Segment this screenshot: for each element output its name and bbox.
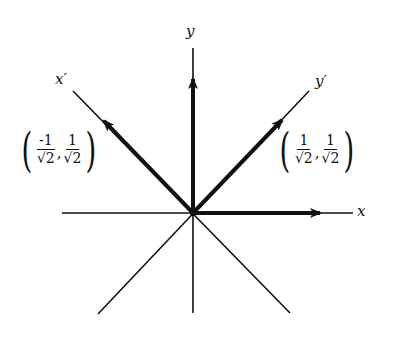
separator: ,: [57, 144, 62, 162]
y-component-fraction: 1 √2: [64, 133, 82, 166]
x-axis-label: x: [357, 204, 365, 219]
x-component-fraction: 1 √2: [295, 133, 313, 166]
numerator: 1: [324, 133, 337, 150]
y-prime-unit-vector-arrow: [193, 120, 282, 213]
open-paren: (: [22, 127, 33, 173]
y-axis-label: y: [186, 24, 194, 39]
x-component-fraction: -1 √2: [37, 133, 55, 166]
origin-point: [190, 210, 196, 216]
separator: ,: [315, 144, 320, 162]
numerator: 1: [66, 133, 79, 150]
rotated-axes-diagram: x y x′ y′ ( -1 √2 , 1 √2 ) ( 1 √2 , 1 √2…: [0, 0, 393, 344]
numerator: 1: [297, 133, 310, 150]
y-component-fraction: 1 √2: [322, 133, 340, 166]
numerator: -1: [37, 133, 55, 150]
y-prime-vector-coordinates: ( 1 √2 , 1 √2 ): [276, 127, 358, 173]
x-prime-vector-coordinates: ( -1 √2 , 1 √2 ): [18, 127, 100, 173]
open-paren: (: [280, 127, 291, 173]
x-prime-axis-label: x′: [55, 72, 67, 87]
close-paren: ): [344, 127, 355, 173]
denominator: √2: [322, 150, 340, 166]
denominator: √2: [37, 150, 55, 166]
denominator: √2: [64, 150, 82, 166]
close-paren: ): [86, 127, 97, 173]
x-prime-unit-vector-arrow: [104, 121, 193, 213]
denominator: √2: [295, 150, 313, 166]
y-prime-axis-label: y′: [315, 74, 327, 89]
